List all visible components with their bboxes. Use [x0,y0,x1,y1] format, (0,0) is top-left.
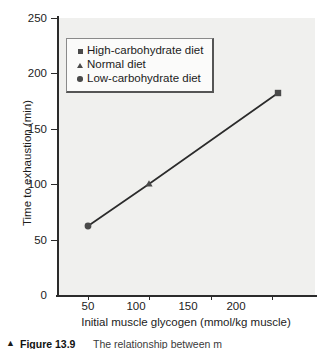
circle-marker-icon [73,76,87,82]
figure-caption: ▲ Figure 13.9 The relationship between m [0,338,319,349]
square-marker-icon [73,49,87,54]
legend-label-normal-diet: Normal diet [87,59,146,71]
legend-label-high-carbohydrate-diet: High-carbohydrate diet [87,45,203,57]
figure-container: 250 200 150 100 50 0 50 100 150 200 Time… [0,0,319,349]
legend-item-low-carbohydrate-diet: Low-carbohydrate diet [73,72,203,86]
caption-text: The relationship between m [93,338,222,349]
legend-label-low-carbohydrate-diet: Low-carbohydrate diet [87,73,201,85]
data-point-low-carbohydrate-diet [85,223,92,230]
caption-figure-number: Figure 13.9 [20,338,75,349]
triangle-marker-icon [73,63,87,68]
caption-arrow-icon: ▲ [6,338,15,348]
legend-item-normal-diet: Normal diet [73,58,203,72]
series-line [88,93,278,226]
legend-item-high-carbohydrate-diet: High-carbohydrate diet [73,44,203,58]
chart-legend: High-carbohydrate diet Normal diet Low-c… [66,38,214,93]
data-point-normal-diet [145,180,152,186]
data-point-high-carbohydrate-diet [275,90,281,96]
